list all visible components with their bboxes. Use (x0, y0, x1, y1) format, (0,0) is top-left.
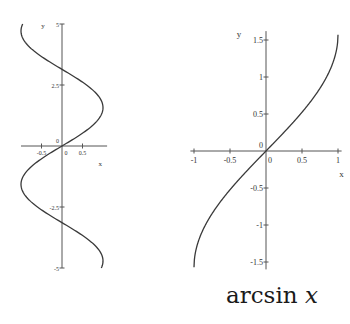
y-axis-label: y (237, 29, 242, 39)
y-tick-label: 1 (259, 73, 263, 82)
y-tick-label: -0.5 (250, 184, 263, 193)
x-tick-label: 0 (268, 156, 272, 165)
x-axis-label: x (339, 169, 344, 179)
x-tick-label: 1 (336, 156, 340, 165)
x-tick-label: 0.5 (297, 156, 307, 165)
arcsin-plot: -1-0.500.51-1.5-1-0.50.511.50xy (0, 0, 350, 324)
y-tick-label: 1.5 (253, 36, 263, 45)
x-tick-label: -1 (191, 156, 198, 165)
x-tick-label: -0.5 (224, 156, 237, 165)
caption-function: arcsin (226, 282, 298, 308)
origin-label: 0 (259, 141, 263, 150)
arcsin-caption: arcsin x (226, 282, 318, 308)
y-tick-label: -1 (256, 221, 263, 230)
y-tick-label: 0.5 (253, 110, 263, 119)
caption-variable: x (305, 282, 318, 308)
y-tick-label: -1.5 (250, 258, 263, 267)
figure: -0.500.5-5-2.52.550xy -1-0.500.51-1.5-1-… (0, 0, 350, 324)
